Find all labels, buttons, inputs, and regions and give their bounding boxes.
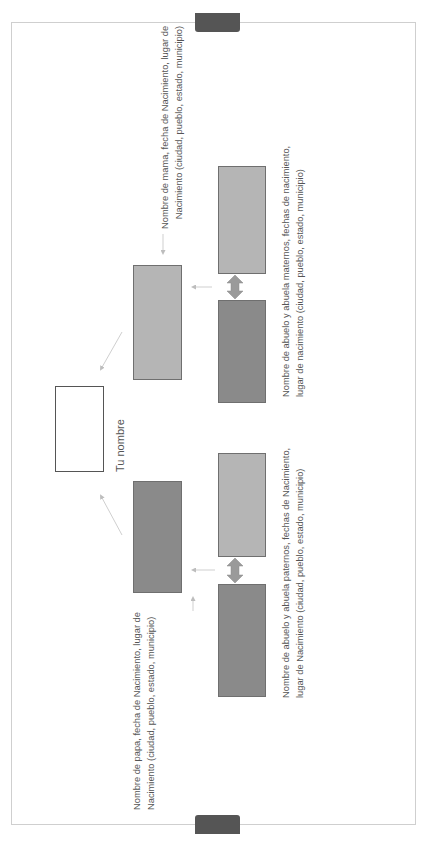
- arrow-mother-to-you: [101, 332, 122, 369]
- you-label: Tu nombre: [113, 419, 127, 472]
- you-label-text: Tu nombre: [113, 419, 127, 472]
- father-label: Nombre de papa, fecha de Nacimiento, lug…: [130, 612, 158, 810]
- mother-label: Nombre de mama, fecha de Nacimiento, lug…: [158, 26, 186, 229]
- maternal-grandparents-label: Nombre de abuelo y abuela maternos, fech…: [279, 146, 307, 397]
- connector-arrows: [0, 0, 426, 844]
- maternal-label-line1: Nombre de abuelo y abuela maternos, fech…: [279, 146, 293, 397]
- paternal-grandparents-label: Nombre de abuelo y abuela paternos, fech…: [279, 448, 307, 698]
- arrow-father-to-you: [101, 496, 122, 535]
- mother-label-line1: Nombre de mama, fecha de Nacimiento, lug…: [158, 26, 172, 229]
- paternal-label-line1: Nombre de abuelo y abuela paternos, fech…: [279, 448, 293, 698]
- double-arrow-maternal: [227, 275, 243, 299]
- father-label-line1: Nombre de papa, fecha de Nacimiento, lug…: [130, 612, 144, 810]
- paternal-label-line2: lugar de Nacimiento (ciudad, pueblo, est…: [293, 448, 307, 698]
- father-label-line2: Nacimiento (ciudad, pueblo, estado, muni…: [144, 612, 158, 810]
- mother-label-line2: Nacimiento (ciudad, pueblo, estado, muni…: [172, 26, 186, 229]
- double-arrow-paternal: [227, 558, 243, 583]
- maternal-label-line2: lugar de nacimiento (ciudad, pueblo, est…: [293, 146, 307, 397]
